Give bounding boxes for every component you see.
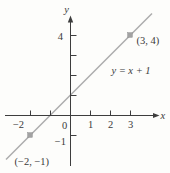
- x-axis-label: x: [160, 110, 166, 121]
- y-axis-ticks: [71, 36, 77, 136]
- point-marker-neg2-neg1: [28, 133, 33, 138]
- x-tick-label-neg2: −2: [13, 119, 24, 130]
- x-tick-label-3: 3: [128, 119, 133, 130]
- point-label-3-4: (3, 4): [137, 35, 160, 47]
- x-tick-label-2: 2: [108, 119, 113, 130]
- x-tick-label-1: 1: [88, 119, 93, 130]
- point-marker-3-4: [128, 33, 133, 38]
- y-axis-arrow-icon: [68, 16, 73, 23]
- coordinate-plane: y x 4 −1 −2 0 1 2 3 y = x + 1 (3, 4) (−2…: [0, 0, 170, 173]
- y-tick-label-4: 4: [58, 31, 64, 42]
- origin-label: 0: [62, 120, 67, 131]
- line-graph-figure: y x 4 −1 −2 0 1 2 3 y = x + 1 (3, 4) (−2…: [0, 0, 170, 173]
- y-tick-label-neg1: −1: [55, 136, 66, 147]
- x-axis-arrow-icon: [153, 113, 160, 118]
- point-label-neg2-neg1: (−2, −1): [15, 156, 50, 168]
- x-axis-ticks: [31, 111, 131, 116]
- equation-label: y = x + 1: [110, 65, 150, 76]
- y-axis-label: y: [63, 4, 69, 15]
